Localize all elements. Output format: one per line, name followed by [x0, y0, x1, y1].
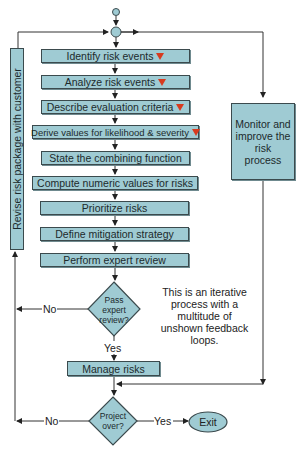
decision-project-label: Project over? [95, 411, 131, 431]
note-line: multitude of [157, 310, 252, 322]
step-label: Prioritize risks [82, 202, 147, 214]
note-line: loops. [157, 334, 252, 346]
red-marker-icon [156, 53, 164, 60]
monitor-improve-box: Monitor and improve the risk process [231, 103, 295, 180]
step-label: Derive values for likelihood & severity [31, 127, 189, 138]
step-identify-risk-events: Identify risk events [41, 49, 190, 63]
step-define-mitigation-strategy: Define mitigation strategy [40, 227, 189, 241]
junction-node [111, 27, 121, 37]
decision-line: Project [95, 411, 131, 421]
revise-risk-package-box: Revise risk package with customer [10, 48, 24, 250]
note-line: This is an iterative [157, 286, 252, 298]
note-line: process with a [157, 298, 252, 310]
monitor-line: Monitor and [235, 118, 290, 130]
step-prioritize-risks: Prioritize risks [40, 201, 189, 215]
revise-label: Revise risk package with customer [11, 68, 23, 230]
step-label: Perform expert review [63, 254, 166, 266]
step-describe-evaluation-criteria: Describe evaluation criteria [41, 100, 190, 114]
decision-line: Pass [94, 295, 134, 305]
step-label: Describe evaluation criteria [47, 101, 174, 113]
review-yes-label: Yes [104, 342, 121, 354]
step-label: State the combining function [49, 152, 182, 164]
step-label: Manage risks [82, 363, 144, 375]
red-marker-icon [158, 79, 166, 86]
red-marker-icon [192, 129, 200, 136]
note-line: unshown feedback [157, 322, 252, 334]
step-perform-expert-review: Perform expert review [40, 253, 189, 267]
step-compute-numeric-values: Compute numeric values for risks [32, 176, 198, 190]
step-state-combining-function: State the combining function [41, 151, 190, 165]
exit-label: Exit [189, 416, 227, 428]
monitor-line: process [245, 154, 282, 166]
step-label: Identify risk events [67, 50, 154, 62]
decision-line: expert [94, 305, 134, 315]
step-analyze-risk-events: Analyze risk events [41, 75, 190, 89]
decision-line: over? [95, 421, 131, 431]
step-label: Analyze risk events [65, 76, 155, 88]
red-marker-icon [176, 104, 184, 111]
step-manage-risks: Manage risks [67, 361, 160, 376]
decision-review-label: Pass expert review? [94, 295, 134, 325]
monitor-line: risk [255, 142, 271, 154]
decision-line: review? [94, 315, 134, 325]
monitor-line: improve the [236, 130, 291, 142]
step-label: Define mitigation strategy [55, 228, 173, 240]
project-no-label: No [44, 415, 59, 427]
iterative-note: This is an iterative process with a mult… [157, 286, 252, 346]
step-label: Compute numeric values for risks [37, 177, 193, 189]
project-yes-label: Yes [154, 415, 171, 427]
start-node [113, 9, 120, 16]
step-derive-values: Derive values for likelihood & severity [32, 125, 199, 139]
review-no-label: No [42, 303, 57, 315]
